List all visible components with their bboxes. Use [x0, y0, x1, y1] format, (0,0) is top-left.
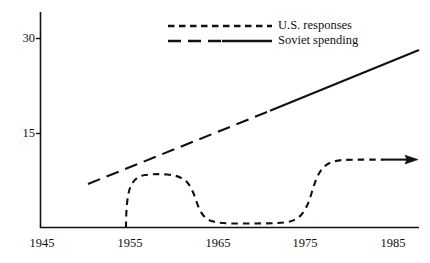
x-tick-label-1975: 1975 [293, 236, 318, 251]
series-us-responses-curve [126, 160, 384, 228]
x-tick-label-1955: 1955 [118, 236, 143, 251]
y-tick-label-30: 30 [23, 31, 36, 46]
x-tick-label-1965: 1965 [206, 236, 231, 251]
x-tick-label-1945: 1945 [30, 236, 55, 251]
legend-label-us-responses: U.S. responses [278, 18, 352, 33]
chart-figure: 30 15 1945 1955 1965 1975 1985 U.S. resp… [0, 0, 430, 263]
legend-label-soviet-spending: Soviet spending [278, 33, 358, 48]
series-soviet-spending-solid-segment [270, 50, 419, 111]
arrow-right-icon [405, 155, 418, 164]
x-tick-label-1985: 1985 [381, 236, 406, 251]
series-soviet-spending-dashed-segment [88, 110, 272, 184]
chart-plot-area [0, 0, 430, 263]
y-tick-label-15: 15 [23, 126, 36, 141]
